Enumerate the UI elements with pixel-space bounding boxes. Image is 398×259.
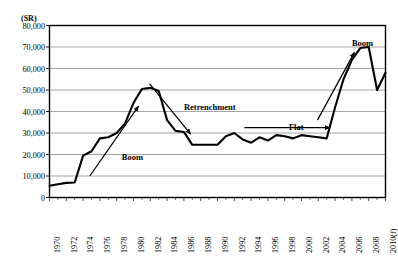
x-tick-label: 1996: [271, 236, 280, 252]
y-tick-label: 70,000: [2, 43, 45, 52]
annotation-label-flat: Flat: [289, 122, 304, 132]
x-tick-label: 1984: [170, 236, 179, 252]
x-tick-label: 1986: [187, 236, 196, 252]
y-tick-label: 40,000: [2, 107, 45, 116]
x-tick-label: 1990: [221, 236, 230, 252]
data-series-layer: [50, 47, 386, 186]
y-tick-label: 10,000: [2, 172, 45, 181]
x-tick-label: 2006: [355, 236, 364, 252]
annotation-label-retrenchment: Retrenchment: [184, 102, 236, 112]
x-tick-label: 1978: [120, 236, 129, 252]
y-tick-label: 0: [2, 193, 45, 202]
x-tick-label: 1970: [53, 236, 62, 252]
x-tick-label: 2002: [322, 236, 331, 252]
x-axis-ticks: [46, 26, 386, 202]
series-line-0: [50, 47, 386, 186]
x-tick-label: 1988: [204, 236, 213, 252]
y-tick-label: 80,000: [2, 21, 45, 30]
x-tick-label: 1994: [254, 236, 263, 252]
y-tick-label: 50,000: [2, 86, 45, 95]
annotation-label-boom: Boom: [122, 152, 143, 162]
x-tick-label: 1974: [86, 236, 95, 252]
gridlines: [50, 26, 386, 177]
y-tick-label: 30,000: [2, 129, 45, 138]
chart-canvas: [0, 0, 398, 259]
x-tick-label: 1980: [137, 236, 146, 252]
x-tick-label: 1992: [238, 236, 247, 252]
x-tick-label: 2000: [305, 236, 314, 252]
y-tick-label: 60,000: [2, 64, 45, 73]
x-tick-label: 1982: [154, 236, 163, 252]
y-tick-label: 20,000: [2, 150, 45, 159]
x-tick-label: 1976: [103, 236, 112, 252]
annotation-label-boom: Boom: [352, 38, 373, 48]
boom-arrow-2: [317, 52, 354, 120]
x-tick-label: 1998: [288, 236, 297, 252]
x-tick-label: 2004: [338, 236, 347, 252]
x-tick-label: 2010(f): [389, 228, 398, 253]
x-tick-label: 2008: [372, 236, 381, 252]
budget-trend-chart: (SR) 80,00070,00060,00050,00040,00030,00…: [0, 0, 398, 259]
x-tick-label: 1972: [70, 236, 79, 252]
